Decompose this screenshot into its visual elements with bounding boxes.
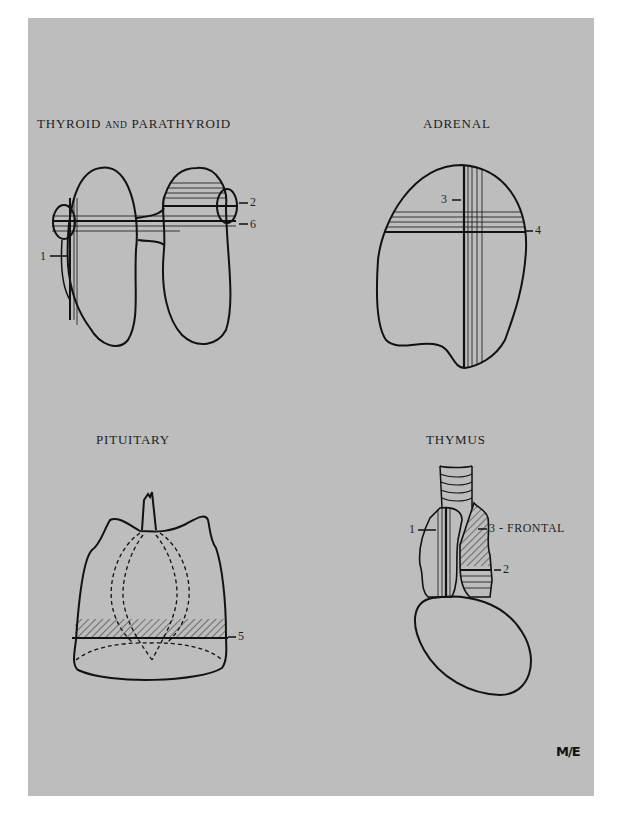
thymus-marker-3-frontal: 3 - FRONTAL	[489, 521, 565, 536]
thyroid-marker-1: 1	[40, 249, 46, 264]
thymus-left-lobe	[420, 508, 462, 597]
thymus-marker-2: 2	[503, 562, 509, 577]
adrenal-outline	[377, 165, 526, 368]
thyroid-marker-2: 2	[250, 195, 256, 210]
thymus-marker-1: 1	[409, 522, 415, 537]
adrenal-drawing	[370, 160, 533, 372]
thyroid-marker-6: 6	[250, 217, 256, 232]
pituitary-stalk	[142, 492, 156, 530]
adrenal-marker-4: 4	[535, 223, 541, 238]
pituitary-marker-5: 5	[238, 629, 244, 644]
trachea	[440, 466, 472, 508]
pituitary-hatched-section	[75, 619, 226, 637]
adrenal-marker-3: 3	[441, 192, 447, 207]
pituitary-outline	[74, 517, 226, 680]
pituitary-drawing	[72, 492, 236, 680]
thyroid-isthmus	[136, 208, 164, 245]
thyroid-left-lobe	[68, 168, 137, 346]
anatomy-drawings	[0, 0, 618, 814]
thyroid-drawing	[53, 168, 237, 346]
artist-monogram: M/E	[556, 744, 580, 759]
pituitary-base-dashed	[76, 643, 222, 660]
heart-outline	[415, 596, 531, 695]
thyroid-section-lines	[50, 183, 248, 325]
thymus-drawing	[415, 466, 531, 695]
